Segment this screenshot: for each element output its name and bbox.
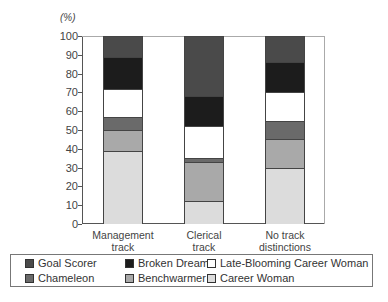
stacked-bar: [184, 36, 224, 224]
legend-label: Benchwarmer: [138, 272, 206, 284]
legend-label: Chameleon: [38, 272, 94, 284]
bar-segment: [185, 96, 223, 126]
legend-label: Career Woman: [220, 272, 294, 284]
bar-segment: [185, 201, 223, 224]
legend-swatch-icon: [25, 259, 34, 268]
y-tick-label: 80: [50, 68, 78, 80]
bar-segment: [104, 117, 142, 130]
bar-segment: [185, 36, 223, 96]
y-tick-label: 60: [50, 105, 78, 117]
stacked-bar: [103, 36, 143, 224]
bar-segment: [266, 92, 304, 120]
legend-swatch-icon: [125, 259, 134, 268]
legend-label: Goal Scorer: [38, 257, 97, 269]
bar-segment: [185, 126, 223, 158]
bar-segment: [266, 62, 304, 92]
y-tick-label: 30: [50, 162, 78, 174]
bar-segment: [104, 57, 142, 89]
legend-label: Late-Blooming Career Woman: [220, 257, 368, 269]
x-tick-label: Clericaltrack: [164, 229, 244, 253]
bar-segment: [266, 121, 304, 140]
legend-item: Broken Dream: [125, 257, 209, 270]
legend-item: Benchwarmer: [125, 272, 206, 285]
legend-label: Broken Dream: [138, 257, 209, 269]
legend-item: Chameleon: [25, 272, 94, 285]
legend-swatch-icon: [25, 274, 34, 283]
bar-segment: [266, 168, 304, 224]
y-tick-label: 0: [50, 218, 78, 230]
x-tick-label: No trackdistinctions: [245, 229, 325, 253]
x-tick-label: Managementtrack: [83, 229, 163, 253]
legend-swatch-icon: [207, 274, 216, 283]
bar-segment: [104, 130, 142, 151]
legend-item: Career Woman: [207, 272, 294, 285]
y-tick-label: 50: [50, 124, 78, 136]
bar-segment: [185, 158, 223, 162]
y-tick-label: 40: [50, 143, 78, 155]
legend-swatch-icon: [125, 274, 134, 283]
bar-segment: [104, 151, 142, 224]
legend-swatch-icon: [207, 259, 216, 268]
y-tick-label: 10: [50, 199, 78, 211]
y-tick-label: 70: [50, 86, 78, 98]
stacked-bar: [265, 36, 305, 224]
bar-segment: [185, 162, 223, 201]
legend-item: Goal Scorer: [25, 257, 97, 270]
y-axis-unit-label: (%): [60, 12, 76, 23]
legend: Goal ScorerBroken DreamLate-Blooming Car…: [10, 254, 373, 287]
bar-segment: [104, 89, 142, 117]
y-tick-label: 20: [50, 180, 78, 192]
bar-segment: [104, 36, 142, 57]
plot-frame-right: [324, 36, 325, 224]
bar-segment: [266, 139, 304, 167]
y-tick-label: 90: [50, 49, 78, 61]
bar-segment: [266, 36, 304, 62]
y-tick-mark: [78, 224, 82, 225]
y-tick-label: 100: [50, 30, 78, 42]
legend-item: Late-Blooming Career Woman: [207, 257, 368, 270]
